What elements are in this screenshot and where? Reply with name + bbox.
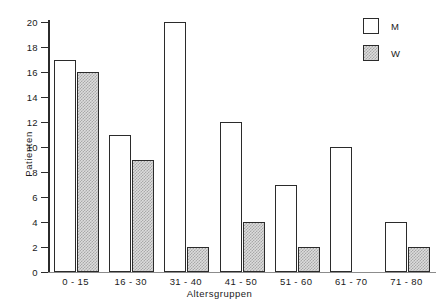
legend-item-W: W <box>363 45 400 61</box>
y-tick-label: 8 <box>32 167 38 178</box>
legend-label-W: W <box>391 48 400 59</box>
bar-W-41-50 <box>243 222 265 272</box>
y-tick-label: 0 <box>32 267 38 278</box>
chart-legend: MW <box>363 18 400 72</box>
x-tick-label-0-15: 0 - 15 <box>62 276 89 287</box>
legend-swatch-M <box>363 18 379 34</box>
bar-M-0-15 <box>54 60 76 273</box>
bar-M-16-30 <box>109 135 131 273</box>
y-tick-mark <box>41 147 48 148</box>
y-tick-label: 6 <box>32 192 38 203</box>
y-tick-mark <box>41 197 48 198</box>
y-tick-label: 10 <box>27 142 38 153</box>
bar-M-51-60 <box>275 185 297 273</box>
bar-group-31-40 <box>164 22 209 272</box>
bar-M-31-40 <box>164 22 186 272</box>
y-tick-label: 14 <box>27 92 38 103</box>
bar-chart-figure: Patienten 02468101214161820 Altersgruppe… <box>0 0 439 308</box>
y-tick-mark <box>41 222 48 223</box>
x-tick-label-41-50: 41 - 50 <box>225 276 257 287</box>
legend-swatch-W <box>363 45 379 61</box>
bar-W-51-60 <box>298 247 320 272</box>
y-tick-label: 2 <box>32 242 38 253</box>
bar-M-71-80 <box>385 222 407 272</box>
bar-W-71-80 <box>408 247 430 272</box>
y-tick-mark <box>41 172 48 173</box>
x-tick-label-16-30: 16 - 30 <box>115 276 147 287</box>
bar-W-16-30 <box>132 160 154 273</box>
y-tick-label: 20 <box>27 17 38 28</box>
bar-M-61-70 <box>330 147 352 272</box>
y-tick-mark <box>41 97 48 98</box>
x-tick-label-51-60: 51 - 60 <box>280 276 312 287</box>
legend-label-M: M <box>391 21 399 32</box>
y-tick-mark <box>41 247 48 248</box>
x-tick-label-71-80: 71 - 80 <box>390 276 422 287</box>
y-tick-mark <box>41 72 48 73</box>
y-tick-mark <box>41 122 48 123</box>
y-tick-label: 4 <box>32 217 38 228</box>
bar-group-0-15 <box>54 22 99 272</box>
bar-W-31-40 <box>187 247 209 272</box>
x-tick-label-61-70: 61 - 70 <box>335 276 367 287</box>
y-tick-label: 16 <box>27 67 38 78</box>
bar-group-41-50 <box>220 22 265 272</box>
bar-W-0-15 <box>77 72 99 272</box>
y-tick-label: 18 <box>27 42 38 53</box>
y-tick-label: 12 <box>27 117 38 128</box>
y-tick-mark <box>41 47 48 48</box>
bar-M-41-50 <box>220 122 242 272</box>
legend-item-M: M <box>363 18 400 34</box>
bar-group-16-30 <box>109 22 154 272</box>
x-tick-label-31-40: 31 - 40 <box>170 276 202 287</box>
y-tick-mark <box>41 22 48 23</box>
x-axis-title: Altersgruppen <box>0 288 439 299</box>
y-tick-mark <box>41 272 48 273</box>
bar-group-51-60 <box>275 22 320 272</box>
